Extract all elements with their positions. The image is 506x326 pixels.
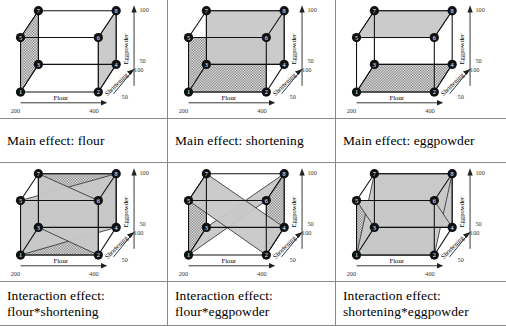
axis-eggpowder-label: Eggpowder (290, 196, 297, 228)
svg-text:1: 1 (355, 251, 358, 258)
axis-shortening-tick-high: 100 (470, 66, 479, 73)
cube-vertex-4: 4 (280, 223, 289, 232)
axis-flour-tick-low: 200 (347, 107, 356, 114)
cube-vertex-5: 5 (184, 196, 193, 205)
axis-shortening-tick-high: 100 (302, 66, 311, 73)
axis-eggpowder-tick-high: 100 (139, 169, 148, 176)
svg-text:2: 2 (97, 88, 100, 95)
cube-face-hatch (21, 11, 39, 92)
svg-text:8: 8 (451, 170, 454, 177)
caption-flour*eggpowder: Interaction effect:flour*eggpowder (168, 281, 336, 326)
cube-vertex-8: 8 (280, 6, 289, 15)
panel-grid: 1 2 3 4 5 6 7 8 Flour 200 400 100 50 Egg… (0, 0, 506, 326)
cube-vertex-8: 8 (112, 6, 121, 15)
svg-text:1: 1 (19, 251, 22, 258)
axis-eggpowder-label: Eggpowder (122, 196, 129, 228)
svg-text:8: 8 (115, 7, 118, 14)
cube-plot-flour*shortening: 1 2 3 4 5 6 7 8 Flour 200 400 100 50 Egg… (0, 163, 168, 281)
cube-face-gray (98, 11, 116, 92)
plot-panel-shortening: 1 2 3 4 5 6 7 8 Flour 200 400 100 50 Egg… (168, 0, 336, 118)
svg-text:3: 3 (373, 61, 376, 68)
axis-eggpowder-tick-low: 50 (307, 220, 313, 227)
axis-flour-tick-low: 200 (11, 270, 20, 277)
axis-eggpowder-tick-high: 100 (307, 6, 316, 13)
svg-text:3: 3 (37, 61, 40, 68)
axis-flour-label: Flour (390, 257, 405, 264)
cube-vertex-8: 8 (280, 169, 289, 178)
plot-panel-flour: 1 2 3 4 5 6 7 8 Flour 200 400 100 50 Egg… (0, 0, 168, 118)
cube-vertex-8: 8 (448, 169, 457, 178)
cube-vertex-5: 5 (16, 33, 25, 42)
cube-vertex-1: 1 (16, 250, 25, 259)
axis-flour: Flour 200 400 (179, 94, 276, 114)
axis-shortening-tick-low: 50 (290, 93, 296, 100)
axis-eggpowder-tick-high: 100 (475, 6, 484, 13)
axis-shortening: 100 50 Shortening (439, 229, 479, 264)
axis-shortening-tick-low: 50 (458, 93, 464, 100)
cube-vertex-6: 6 (262, 33, 271, 42)
axis-flour-tick-low: 200 (179, 107, 188, 114)
svg-text:5: 5 (19, 34, 22, 41)
cube-vertex-5: 5 (352, 33, 361, 42)
axis-shortening: 100 50 Shortening (271, 66, 311, 101)
axis-eggpowder-tick-low: 50 (139, 57, 145, 64)
caption-line: Main effect: eggpowder (343, 133, 506, 149)
axis-flour-tick-high: 400 (89, 270, 98, 277)
axis-shortening-tick-high: 100 (134, 229, 143, 236)
svg-text:7: 7 (373, 7, 376, 14)
caption-line: Main effect: shortening (175, 133, 335, 149)
cube-plot-eggpowder: 1 2 3 4 5 6 7 8 Flour 200 400 100 50 Egg… (336, 0, 504, 118)
svg-text:8: 8 (451, 7, 454, 14)
cube-edge (189, 11, 207, 38)
svg-text:8: 8 (283, 7, 286, 14)
svg-text:1: 1 (187, 88, 190, 95)
cube-vertex-3: 3 (370, 223, 379, 232)
cube-vertex-1: 1 (184, 250, 193, 259)
cube-vertex-6: 6 (94, 33, 103, 42)
cube-vertex-3: 3 (370, 60, 379, 69)
svg-text:5: 5 (355, 197, 358, 204)
cube-vertex-1: 1 (184, 87, 193, 96)
caption-eggpowder: Main effect: eggpowder (336, 118, 506, 163)
svg-text:6: 6 (265, 34, 268, 41)
svg-text:8: 8 (283, 170, 286, 177)
axis-flour-tick-high: 400 (89, 107, 98, 114)
cube-vertex-2: 2 (262, 250, 271, 259)
axis-flour-label: Flour (222, 257, 237, 264)
svg-text:7: 7 (373, 170, 376, 177)
axis-flour-tick-high: 400 (257, 107, 266, 114)
cube-vertex-3: 3 (34, 223, 43, 232)
cube-vertex-3: 3 (202, 60, 211, 69)
plot-panel-flour*eggpowder: 1 2 3 4 5 6 7 8 Flour 200 400 100 50 Egg… (168, 163, 336, 281)
cube-vertex-2: 2 (94, 87, 103, 96)
axis-flour: Flour 200 400 (347, 94, 444, 114)
axis-eggpowder-tick-low: 50 (139, 220, 145, 227)
cube-vertex-7: 7 (202, 169, 211, 178)
cube-vertex-7: 7 (34, 169, 43, 178)
axis-flour-tick-low: 200 (347, 270, 356, 277)
caption-line: Interaction effect: (7, 288, 167, 304)
cube-vertex-6: 6 (94, 196, 103, 205)
cube-vertex-5: 5 (16, 196, 25, 205)
axis-flour-tick-high: 400 (257, 270, 266, 277)
svg-text:6: 6 (97, 34, 100, 41)
axis-flour-tick-low: 200 (11, 107, 20, 114)
cube-vertex-2: 2 (94, 250, 103, 259)
cube-vertex-4: 4 (112, 60, 121, 69)
cube-vertex-8: 8 (112, 169, 121, 178)
cube-plot-shortening*eggpowder: 1 2 3 4 5 6 7 8 Flour 200 400 100 50 Egg… (336, 163, 504, 281)
svg-text:1: 1 (355, 88, 358, 95)
axis-shortening-tick-high: 100 (134, 66, 143, 73)
cube-vertex-5: 5 (184, 33, 193, 42)
axis-eggpowder-tick-high: 100 (139, 6, 148, 13)
svg-text:2: 2 (433, 251, 436, 258)
axis-flour-tick-high: 400 (425, 107, 434, 114)
cube-plot-flour*eggpowder: 1 2 3 4 5 6 7 8 Flour 200 400 100 50 Egg… (168, 163, 336, 281)
caption-flour*shortening: Interaction effect:flour*shortening (0, 281, 168, 326)
svg-text:2: 2 (433, 88, 436, 95)
svg-text:7: 7 (205, 170, 208, 177)
cube-vertex-4: 4 (280, 60, 289, 69)
axis-shortening-tick-low: 50 (122, 93, 128, 100)
axis-flour-label: Flour (54, 94, 69, 101)
axis-flour-tick-low: 200 (179, 270, 188, 277)
